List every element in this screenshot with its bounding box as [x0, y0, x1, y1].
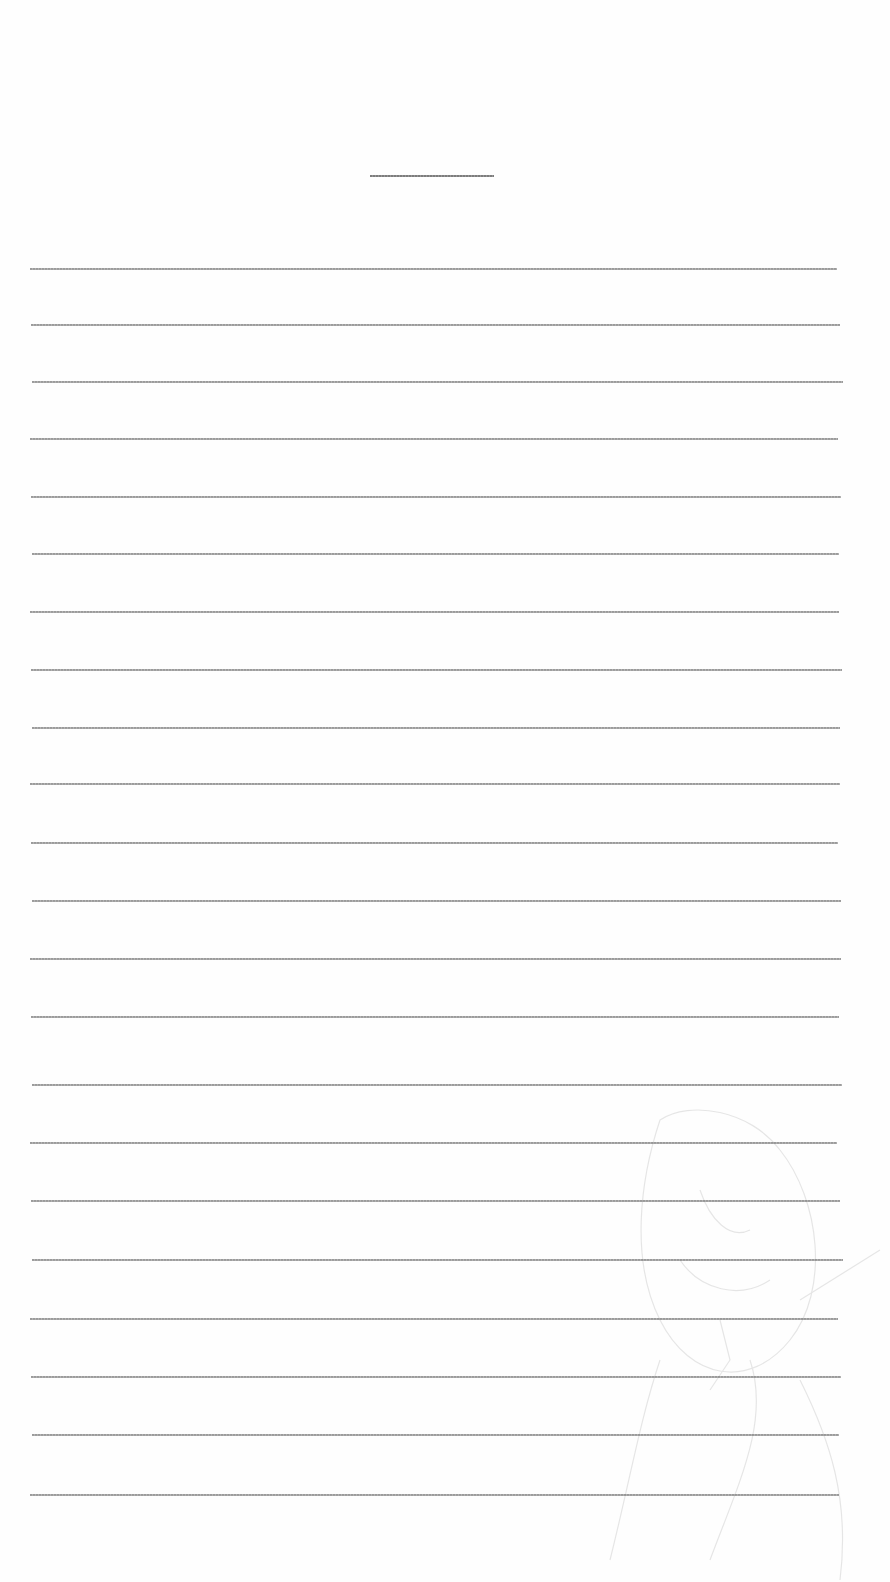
- ruled-line: [32, 900, 841, 902]
- ruled-line: [30, 1318, 838, 1320]
- ruled-line: [30, 1142, 837, 1144]
- ruled-line: [31, 1200, 840, 1202]
- ruled-line: [30, 438, 838, 440]
- ruled-line: [31, 496, 841, 498]
- ruled-line: [32, 553, 839, 555]
- ruled-line: [32, 1259, 843, 1261]
- ruled-line: [32, 1434, 839, 1436]
- ruled-line: [31, 324, 840, 326]
- ruled-line: [30, 1494, 839, 1496]
- ruled-line: [30, 958, 841, 960]
- ruled-line: [30, 783, 840, 785]
- bleed-through-sketch-icon: [600, 1060, 890, 1582]
- ruled-line: [32, 1084, 842, 1086]
- ruled-line: [30, 268, 837, 270]
- title-underline: [370, 175, 494, 177]
- ruled-line: [31, 1376, 841, 1378]
- ruled-line: [32, 727, 840, 729]
- ruled-line: [31, 1016, 839, 1018]
- lined-page: [0, 0, 890, 1582]
- ruled-line: [30, 611, 839, 613]
- ruled-line: [32, 381, 843, 383]
- ruled-line: [31, 842, 838, 844]
- ruled-line: [31, 669, 842, 671]
